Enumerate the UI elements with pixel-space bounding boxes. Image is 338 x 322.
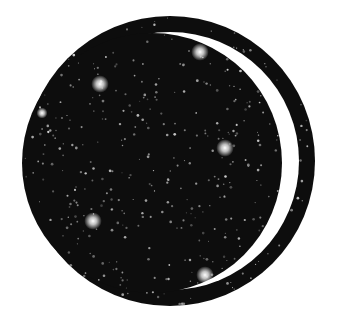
bright-star xyxy=(84,212,102,230)
bright-star xyxy=(37,108,48,119)
bright-star xyxy=(216,139,234,157)
bright-star xyxy=(196,266,214,284)
bright-star xyxy=(91,75,109,93)
bright-star xyxy=(191,43,209,61)
starfield-emblem xyxy=(0,0,338,322)
inner-disc xyxy=(22,33,282,293)
